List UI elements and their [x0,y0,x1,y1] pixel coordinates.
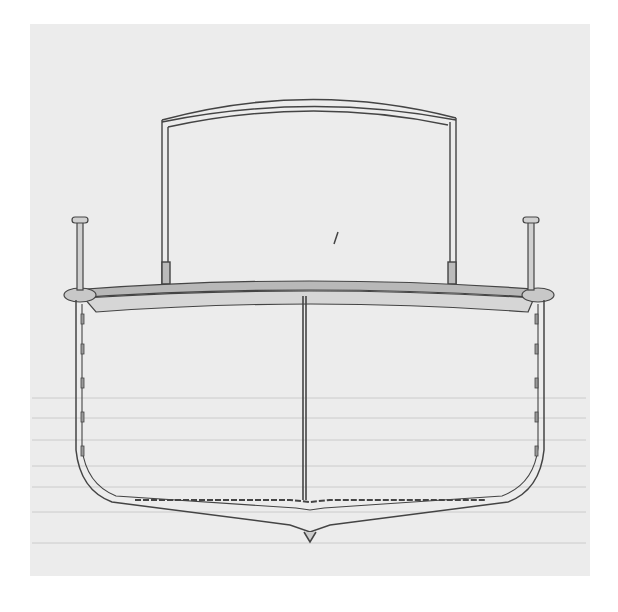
pencil-mark [334,232,338,244]
waterlines [32,398,586,543]
main-deck [64,281,554,312]
deckhouse [162,99,456,284]
hull-drawing [0,0,618,612]
hull-shell [76,300,544,542]
rail-stanchions [72,217,539,290]
frame-knees [81,314,538,456]
